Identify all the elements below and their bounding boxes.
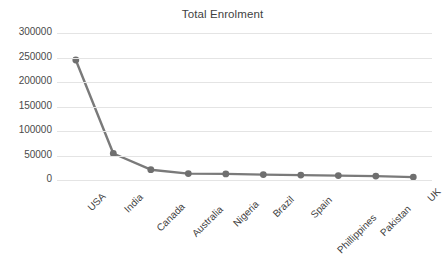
x-axis-tick-label-text: UK (425, 186, 443, 204)
gridline (57, 107, 432, 108)
x-axis-tick-label: USA (90, 186, 112, 208)
y-axis-tick-label: 50000 (4, 149, 52, 160)
x-axis-tick-label: Canada (169, 186, 202, 219)
y-axis-tick-label: 250000 (4, 51, 52, 62)
x-axis-tick-label-text: Brazil (271, 194, 296, 219)
y-axis-tick-label: 100000 (4, 124, 52, 135)
data-point-marker: Brazil: 11000 (260, 171, 267, 178)
x-axis-tick-labels: USAIndiaCanadaAustraliaNigeriaBrazilSpai… (57, 180, 432, 244)
y-axis-tick-labels: 300000250000200000150000100000500000 (0, 33, 52, 180)
data-point-marker: Pakistan: 8000 (372, 173, 379, 180)
x-axis-tick-label-text: Canada (154, 201, 187, 234)
plot-area: USA: 245000India: 54000Canada: 21000Aust… (57, 33, 432, 180)
gridline (57, 156, 432, 157)
x-axis-tick-label-text: Spain (308, 194, 334, 220)
chart-title: Total Enrolment (0, 8, 445, 20)
data-point-marker: Australia: 13000 (185, 170, 192, 177)
gridline (57, 82, 432, 83)
gridline (57, 33, 432, 34)
line-series-path (76, 60, 414, 177)
data-point-marker: Phillippines: 9000 (335, 172, 342, 179)
x-axis-tick-label-text: Nigeria (231, 199, 261, 229)
x-axis-tick-label-text: Australia (190, 204, 225, 239)
x-axis-tick-label: Spain (316, 186, 342, 212)
x-axis-tick-label-text: Phillippines (335, 212, 379, 255)
x-axis-tick-label: India (128, 186, 151, 209)
gridline (57, 131, 432, 132)
x-axis-tick-label-text: India (122, 191, 145, 214)
gridline (57, 58, 432, 59)
y-axis-tick-label: 0 (4, 173, 52, 184)
data-point-marker: Canada: 21000 (147, 166, 154, 173)
y-axis-tick-label: 300000 (4, 26, 52, 37)
x-axis-tick-label: UK (425, 186, 443, 204)
x-axis-tick-label-text: USA (85, 191, 107, 213)
x-axis-tick-label: Brazil (279, 186, 304, 211)
y-axis-tick-label: 200000 (4, 75, 52, 86)
y-axis-tick-label: 150000 (4, 100, 52, 111)
data-point-marker: Spain: 10000 (297, 172, 304, 179)
data-point-marker: Nigeria: 12500 (222, 171, 229, 178)
data-point-markers: USA: 245000India: 54000Canada: 21000Aust… (72, 57, 416, 181)
x-axis-tick-label: Nigeria (243, 186, 273, 216)
